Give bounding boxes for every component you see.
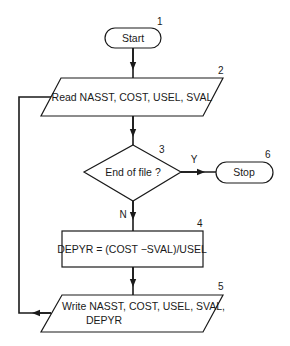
node-decision-eof: End of file ? 3 (84, 144, 181, 201)
flowchart: Start 1 Read NASST, COST, USEL, SVAL 2 E… (0, 0, 290, 346)
edge-label-yes: Y (191, 154, 198, 165)
node-number-1: 1 (157, 16, 163, 27)
node-number-3: 3 (159, 144, 165, 155)
node-start: Start 1 (105, 16, 163, 48)
node-number-2: 2 (218, 65, 224, 76)
node-write-label-line1: Write NASST, COST, USEL, SVAL, (62, 300, 225, 312)
node-number-6: 6 (265, 149, 271, 160)
node-number-5: 5 (218, 281, 224, 292)
node-number-4: 4 (197, 218, 203, 229)
node-process-label: DEPYR = (COST −SVAL)/USEL (57, 243, 207, 255)
node-stop-label: Stop (233, 166, 255, 178)
edge-loop-write-to-read (19, 97, 51, 313)
node-write-label-line2: DEPYR (86, 314, 123, 326)
node-decision-label: End of file ? (105, 166, 161, 178)
node-stop: Stop 6 (216, 149, 273, 183)
node-read-label: Read NASST, COST, USEL, SVAL (52, 91, 213, 103)
node-start-label: Start (122, 32, 144, 44)
edge-label-no: N (119, 209, 126, 220)
node-process-depyr: DEPYR = (COST −SVAL)/USEL 4 (57, 218, 207, 267)
